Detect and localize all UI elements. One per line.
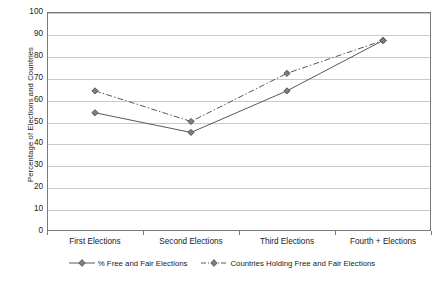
y-axis-tick-label: 90: [17, 30, 43, 38]
line-chart: Percentage of Elections and Countries 10…: [0, 0, 444, 281]
legend-solid-line-diamond-icon: [69, 258, 95, 268]
legend-dashdot-line-diamond-icon: [201, 258, 227, 268]
data-point-marker: [284, 70, 290, 76]
y-axis-tick-label: 40: [17, 139, 43, 147]
y-axis-tick-label: 80: [17, 52, 43, 60]
series-line-1: [95, 40, 383, 121]
data-point-marker: [188, 129, 194, 135]
y-axis-tick-label: 30: [17, 161, 43, 169]
x-axis-tickmark: [335, 231, 336, 235]
y-axis-tick-label: 10: [17, 205, 43, 213]
legend-label: % Free and Fair Elections: [98, 259, 188, 268]
y-axis-tick-label: 100: [17, 8, 43, 16]
x-axis-tick-label: First Elections: [47, 237, 143, 247]
y-axis-tick-label: 60: [17, 96, 43, 104]
x-axis-tickmark: [431, 231, 432, 235]
x-axis-labels: First ElectionsSecond ElectionsThird Ele…: [47, 237, 431, 251]
series-line-0: [95, 40, 383, 132]
x-axis-tick-label: Fourth + Elections: [335, 237, 431, 247]
x-axis-tickmark: [143, 231, 144, 235]
chart-legend: % Free and Fair Elections Countries Hold…: [0, 258, 444, 268]
data-point-marker: [92, 110, 98, 116]
data-point-marker: [284, 88, 290, 94]
series-layer: [47, 12, 431, 231]
data-point-marker: [188, 118, 194, 124]
y-axis-tick-label: 20: [17, 183, 43, 191]
y-axis-tick-label: 0: [17, 227, 43, 235]
y-axis-tick-label: 70: [17, 74, 43, 82]
data-point-marker: [380, 37, 386, 43]
data-point-marker: [92, 88, 98, 94]
legend-label: Countries Holding Free and Fair Election…: [230, 259, 375, 268]
x-axis-tickmark: [239, 231, 240, 235]
x-axis-tick-label: Third Elections: [239, 237, 335, 247]
y-axis-tick-label: 50: [17, 118, 43, 126]
x-axis-tick-label: Second Elections: [143, 237, 239, 247]
legend-item-free-and-fair-elections[interactable]: % Free and Fair Elections: [69, 258, 188, 268]
x-axis-tickmark: [47, 231, 48, 235]
y-axis-tick-labels: 1009080706050403020100: [13, 12, 43, 231]
legend-item-countries-holding-free-and-fair-elections[interactable]: Countries Holding Free and Fair Election…: [201, 258, 375, 268]
